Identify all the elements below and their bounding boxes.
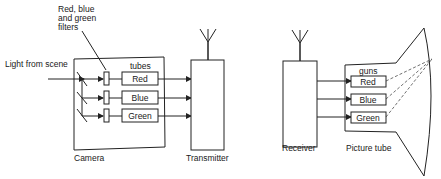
light-from-scene-label: Light from scene	[5, 59, 68, 69]
filter-green	[104, 109, 109, 122]
receiver-block	[283, 30, 317, 147]
receiver-label: Receiver	[282, 143, 316, 153]
guns-label: guns	[359, 66, 377, 76]
beam-red	[386, 59, 432, 81]
filter-red	[104, 72, 109, 85]
tube-blue-label: Blue	[131, 93, 148, 103]
antenna-icon	[200, 29, 208, 42]
gun-red-label: Red	[360, 77, 376, 87]
transmitter-label: Transmitter	[186, 153, 229, 163]
gun-blue-label: Blue	[359, 95, 376, 105]
camera-label: Camera	[74, 153, 105, 163]
transmitter-block	[191, 29, 224, 150]
filters-pointer-line	[82, 31, 106, 70]
diagram-canvas: Red, blue and green filters Light from s…	[0, 0, 441, 179]
antenna-icon	[292, 30, 300, 43]
tube-red-label: Red	[132, 74, 148, 84]
picture-tube-block: guns Red Blue Green	[345, 28, 432, 176]
filters-label-line3: filters	[58, 22, 78, 32]
beam-blue	[386, 59, 432, 99]
camera-block: tubes Red Blue Green	[74, 57, 165, 150]
tube-green-label: Green	[128, 111, 152, 121]
beam-green	[386, 59, 432, 117]
tubes-label: tubes	[130, 61, 151, 71]
filter-blue	[104, 91, 109, 104]
picture-tube-label: Picture tube	[346, 143, 392, 153]
gun-green-label: Green	[356, 113, 380, 123]
